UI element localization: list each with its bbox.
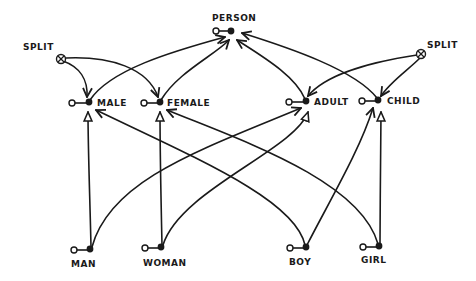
input-port-icon (69, 100, 75, 106)
edge-man-adult (92, 108, 301, 247)
node-label: MALE (97, 98, 127, 108)
node-split-left[interactable]: SPLIT (23, 42, 66, 64)
edge-male-person (90, 37, 225, 100)
edge-split-male (63, 61, 87, 97)
node-label: WOMAN (143, 258, 187, 268)
node-label: PERSON (212, 13, 256, 23)
node-dot-icon (87, 246, 94, 253)
node-child[interactable]: CHILD (359, 96, 420, 106)
node-man[interactable]: MAN (71, 246, 96, 269)
input-port-icon (360, 244, 366, 250)
node-dot-icon (303, 244, 310, 251)
input-port-icon (287, 245, 293, 251)
edge-man-male (88, 112, 91, 247)
input-port-icon (141, 100, 147, 106)
node-dot-icon (158, 244, 165, 251)
node-split-right[interactable]: SPLIT (417, 40, 459, 59)
edge-boy-male (96, 110, 305, 245)
node-dot-icon (303, 98, 310, 105)
node-label: CHILD (387, 96, 420, 106)
edge-girl-child (380, 112, 381, 244)
edge-boy-child (307, 108, 373, 245)
edge-female-person (161, 40, 229, 100)
node-person[interactable]: PERSON (212, 13, 256, 34)
node-female[interactable]: FEMALE (141, 98, 210, 108)
input-port-icon (142, 245, 148, 251)
edge-child-person (242, 33, 377, 98)
node-label: SPLIT (427, 40, 458, 50)
node-dot-icon (157, 99, 164, 106)
edge-adult-person (237, 40, 305, 99)
node-label: FEMALE (167, 98, 210, 108)
node-label: SPLIT (23, 42, 54, 52)
node-male[interactable]: MALE (69, 98, 127, 108)
edge-girl-female (167, 110, 378, 244)
edge-woman-female (160, 112, 162, 245)
node-boy[interactable]: BOY (287, 244, 311, 267)
concept-hierarchy-diagram: PERSON SPLIT SPLIT MALE FEMALE ADULT CHI… (0, 0, 476, 281)
edge-split-child (381, 58, 420, 96)
input-port-icon (71, 247, 77, 253)
input-port-icon (286, 99, 292, 105)
node-dot-icon (86, 99, 93, 106)
input-port-icon (359, 98, 365, 104)
node-dot-icon (228, 28, 235, 35)
node-label: GIRL (361, 255, 386, 265)
node-label: BOY (289, 257, 311, 267)
node-label: MAN (71, 259, 96, 269)
node-dot-icon (376, 243, 383, 250)
node-dot-icon (375, 97, 382, 104)
node-girl[interactable]: GIRL (360, 243, 386, 265)
node-woman[interactable]: WOMAN (142, 244, 187, 268)
node-adult[interactable]: ADULT (286, 97, 349, 107)
edges (63, 33, 420, 247)
input-port-icon (213, 28, 219, 34)
node-label: ADULT (314, 97, 349, 107)
